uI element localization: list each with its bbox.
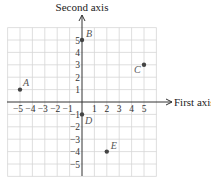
point-c-label: C (134, 64, 141, 75)
y-tick-label: −3 (70, 135, 80, 145)
point-b-label: B (86, 28, 92, 39)
y-tick-label: 5 (75, 36, 80, 46)
x-axis-title: First axis (174, 96, 211, 108)
x-tick-label: −3 (38, 104, 48, 114)
y-axis-title: Second axis (56, 1, 109, 13)
y-tick-label: −2 (70, 122, 80, 132)
point-d-marker (80, 112, 84, 116)
point-a-label: A (22, 77, 30, 88)
x-tick-label: 3 (117, 104, 122, 114)
coordinate-plane: Second axis First axis −5−4−3−2−112345 5… (0, 0, 211, 180)
y-tick-label: 3 (75, 60, 80, 70)
y-tick-label: 4 (75, 48, 80, 58)
x-tick-label: 5 (142, 104, 147, 114)
y-tick-label: −4 (70, 147, 80, 157)
point-b-marker (80, 38, 84, 42)
x-tick-label: 4 (129, 104, 134, 114)
point-d-label: D (84, 115, 93, 126)
point-e-label: E (110, 140, 117, 151)
x-tick-label: −2 (50, 104, 60, 114)
x-tick-label: −4 (25, 104, 35, 114)
y-tick-label: 1 (75, 85, 80, 95)
x-tick-label: −5 (13, 104, 23, 114)
x-tick-label: 1 (92, 104, 97, 114)
point-a-marker (18, 87, 22, 91)
y-tick-label: −5 (70, 160, 80, 170)
point-c-marker (142, 63, 146, 67)
y-tick-label: −1 (70, 110, 80, 120)
x-tick-label: 2 (104, 104, 109, 114)
y-tick-label: 2 (75, 73, 80, 83)
point-e-marker (105, 149, 109, 153)
